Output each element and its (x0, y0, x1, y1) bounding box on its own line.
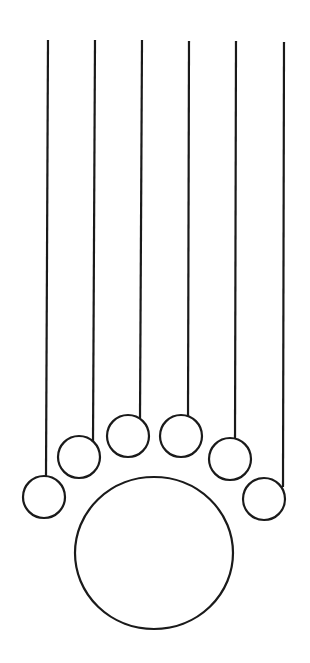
string-3 (140, 40, 142, 418)
string-1 (46, 40, 48, 476)
toe-circle-2 (58, 436, 100, 478)
string-5 (235, 41, 236, 438)
string-4 (188, 41, 189, 417)
toe-circle-6 (243, 478, 285, 520)
paw-diagram (0, 0, 310, 663)
toe-circle-1 (23, 476, 65, 518)
pad-circle (75, 477, 233, 629)
toe-circle-5 (209, 438, 251, 480)
toe-circle-3 (107, 415, 149, 457)
toe-circle-4 (160, 415, 202, 457)
string-6 (283, 42, 284, 487)
string-2 (93, 40, 95, 442)
